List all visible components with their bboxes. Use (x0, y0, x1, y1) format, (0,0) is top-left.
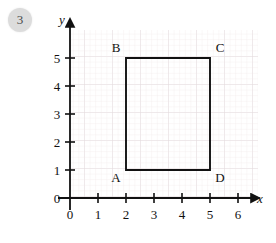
y-axis-label: y (57, 12, 65, 27)
y-tick-label-0: 0 (54, 191, 61, 206)
x-tick-label-1: 1 (95, 207, 102, 222)
x-tick-label-2: 2 (123, 207, 130, 222)
x-tick-label-6: 6 (235, 207, 242, 222)
x-tick-label-0: 0 (67, 207, 74, 222)
y-tick-label-1: 1 (54, 163, 61, 178)
x-tick-label-5: 5 (207, 207, 214, 222)
coordinate-grid-figure: 0 1 2 3 4 5 6 0 1 2 3 4 5 x y A B C D (0, 0, 276, 243)
y-tick-label-5: 5 (54, 51, 61, 66)
vertex-label-c: C (216, 40, 225, 55)
y-tick-labels: 0 1 2 3 4 5 (54, 51, 61, 206)
x-tick-label-4: 4 (179, 207, 186, 222)
vertex-label-d: D (215, 170, 224, 185)
grid-background (70, 30, 258, 198)
vertex-label-b: B (112, 40, 121, 55)
x-tick-labels: 0 1 2 3 4 5 6 (67, 207, 242, 222)
y-tick-label-2: 2 (54, 135, 61, 150)
x-axis-label: x (256, 191, 263, 206)
y-tick-label-4: 4 (54, 79, 61, 94)
y-tick-label-3: 3 (54, 107, 61, 122)
vertex-label-a: A (111, 170, 121, 185)
x-tick-label-3: 3 (151, 207, 158, 222)
